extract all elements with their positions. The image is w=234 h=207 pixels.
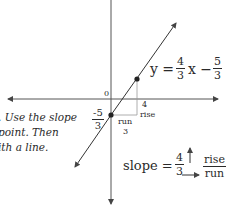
slope-label: slope = [123, 159, 173, 172]
rise-over-run: rise run [203, 154, 226, 179]
run-label: run [118, 118, 132, 126]
equation-lhs: y = [150, 62, 174, 76]
y-intercept-label: -5 3 [92, 108, 104, 131]
y-intercept-point [108, 112, 113, 117]
origin-label: 0 [104, 90, 109, 98]
second-point [134, 76, 139, 81]
equation-coefficient: 4 3 [176, 56, 185, 81]
rise-label: rise [140, 111, 155, 119]
graph-canvas [0, 0, 234, 207]
run-value: 3 [123, 128, 128, 136]
instruction-line-1: . Use the slope [0, 112, 77, 123]
instruction-line-2: point. Then [0, 127, 59, 138]
equation-constant: 5 3 [213, 56, 222, 81]
instruction-line-3: ith a line. [0, 142, 48, 153]
rise-value: 4 [142, 101, 147, 109]
slope-fraction: 4 3 [175, 152, 184, 177]
equation-variable: x − [188, 62, 212, 76]
